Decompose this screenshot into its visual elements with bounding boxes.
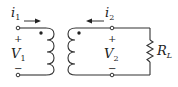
secondary-top-terminal — [110, 26, 114, 30]
primary-plus-sign: + — [14, 33, 22, 44]
secondary-polarity-dot — [77, 31, 80, 34]
load-resistor-label: RL — [156, 43, 172, 60]
transformer-circuit-diagram: i1 + V1 − i2 + V2 − RL — [0, 0, 178, 87]
primary-minus-sign: − — [14, 63, 22, 74]
primary-voltage-label: V1 — [11, 46, 25, 63]
secondary-plus-sign: + — [108, 33, 116, 44]
secondary-current-arrow-icon — [86, 19, 104, 24]
primary-current-label: i1 — [11, 5, 20, 22]
primary-current-arrow-icon — [24, 19, 41, 24]
primary-coil — [46, 28, 54, 75]
secondary-minus-sign: − — [108, 63, 116, 74]
primary-top-terminal — [16, 26, 20, 30]
load-resistor — [147, 40, 153, 62]
primary-polarity-dot — [39, 31, 42, 34]
primary-wires — [19, 28, 46, 75]
secondary-voltage-label: V2 — [104, 46, 118, 63]
secondary-coil — [68, 28, 76, 75]
secondary-current-label: i2 — [105, 5, 114, 22]
